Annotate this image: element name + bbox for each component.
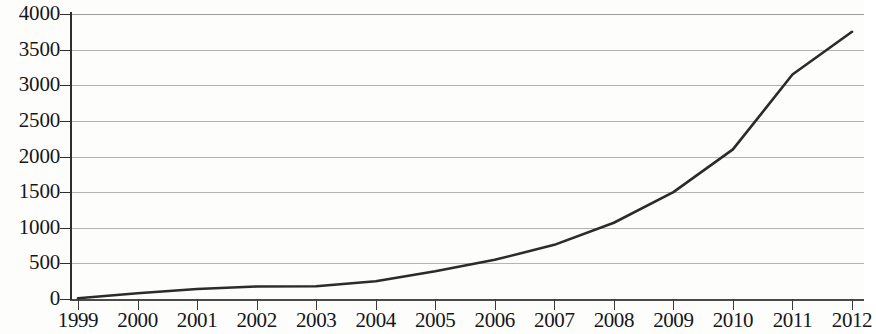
gridline-2500 (70, 121, 864, 122)
y-tick-3000 (60, 85, 72, 86)
y-axis-label: 4000 (2, 3, 60, 24)
y-tick-2000 (60, 157, 72, 158)
y-tick-500 (60, 263, 72, 264)
y-axis-label: 500 (2, 252, 60, 273)
y-tick-4000 (60, 14, 72, 15)
gridline-1500 (70, 192, 864, 193)
gridline-1000 (70, 228, 864, 229)
gridline-3500 (70, 50, 864, 51)
y-axis-label: 3000 (2, 74, 60, 95)
x-axis-line (70, 299, 864, 301)
y-axis-label: 1000 (2, 217, 60, 238)
y-axis-label: 0 (2, 288, 60, 309)
x-axis-label: 2012 (817, 309, 876, 332)
y-axis-label: 2000 (2, 146, 60, 167)
gridline-3000 (70, 85, 864, 86)
y-axis-label: 1500 (2, 181, 60, 202)
y-tick-1000 (60, 228, 72, 229)
gridline-4000 (70, 14, 864, 15)
y-axis-label: 2500 (2, 110, 60, 131)
y-tick-1500 (60, 192, 72, 193)
gridline-500 (70, 263, 864, 264)
y-tick-2500 (60, 121, 72, 122)
y-tick-3500 (60, 50, 72, 51)
plot-area (70, 14, 864, 299)
y-tick-0 (60, 299, 72, 300)
y-axis-label: 3500 (2, 39, 60, 60)
gridline-2000 (70, 157, 864, 158)
